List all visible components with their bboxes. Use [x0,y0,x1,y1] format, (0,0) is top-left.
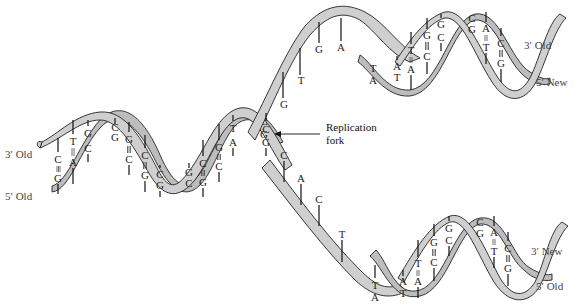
base: A [407,63,415,75]
base: G [262,136,270,148]
base: A [337,41,345,53]
base: C [262,123,269,135]
base: A [399,275,407,287]
base: C [125,153,132,165]
base: T [394,71,401,83]
upper-new-strand [358,14,550,96]
base: G [199,176,207,188]
label-lower-3-new: 3′ New [531,245,562,257]
base: C [199,157,206,169]
fork-label-line2: fork [326,134,345,146]
dna-replication-diagram: C G T A G C C G G C C G C G [0,0,575,306]
base: A [369,74,377,86]
base: C [430,256,437,268]
base: C [54,153,61,165]
base: G [468,23,476,35]
base: A [482,22,490,34]
lower-new-strand [370,218,552,297]
base: C [504,242,511,254]
base: T [339,228,346,240]
base: G [476,227,484,239]
base: G [315,43,323,55]
base: T [415,257,422,269]
base: T [370,62,377,74]
base: G [423,29,431,41]
base: C [497,37,504,49]
base: T [483,41,490,53]
base: A [490,226,498,238]
base: G [280,98,288,110]
fork-label-line1: Replication [326,121,377,133]
base: A [297,172,305,184]
label-upper-5-new: 5′ New [536,76,567,88]
label-upper-3-old: 3′ Old [524,39,552,51]
base: C [437,31,444,43]
base: T [400,287,407,299]
base: G [84,127,92,139]
base: C [141,149,148,161]
base: A [371,291,379,303]
base: T [408,44,415,56]
base: G [430,236,438,248]
base: G [111,131,119,143]
base: G [497,57,505,69]
base: G [445,222,453,234]
label-left-3-old: 3′ Old [5,148,33,160]
base: T [491,245,498,257]
base: C [280,149,287,161]
base: T [70,135,77,147]
base: C [445,234,452,246]
base: G [504,262,512,274]
base: G [125,133,133,145]
base: C [185,177,192,189]
base: T [230,122,237,134]
base: A [69,156,77,168]
label-lower-5-old: 5′ Old [536,280,564,292]
base: C [423,50,430,62]
base: C [84,142,91,154]
base: A [229,136,237,148]
base: G [437,18,445,30]
replication-fork-annotation: Replication fork [274,121,377,146]
upper-daughter-helix: T A A T T A G C G C C G A T C G [358,12,566,99]
base: T [372,279,379,291]
base: G [141,169,149,181]
base: G [215,141,223,153]
base: C [215,160,222,172]
base: T [298,74,305,86]
base: G [54,172,62,184]
label-left-5-old: 5′ Old [5,190,33,202]
base: C [315,193,322,205]
base: A [414,275,422,287]
base: G [156,179,164,191]
